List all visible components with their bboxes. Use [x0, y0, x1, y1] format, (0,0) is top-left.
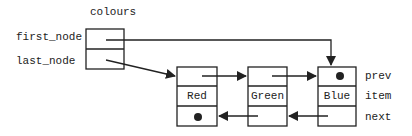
first-node-label: first_node	[16, 31, 82, 43]
list-name-label: colours	[90, 6, 136, 18]
field-label-item: item	[365, 90, 391, 102]
field-label-prev: prev	[365, 70, 391, 82]
last-node-pointer-arrow	[106, 60, 175, 76]
node-item-blue: Blue	[318, 90, 356, 102]
last-node-label: last_node	[16, 55, 75, 67]
first-node-pointer-arrow	[106, 40, 331, 65]
null-dot-blue-prev	[336, 72, 344, 80]
linked-list-diagram	[0, 0, 412, 136]
field-label-next: next	[365, 111, 391, 123]
node-item-green: Green	[248, 90, 287, 102]
null-dot-red-next	[194, 113, 202, 121]
node-item-red: Red	[177, 90, 217, 102]
